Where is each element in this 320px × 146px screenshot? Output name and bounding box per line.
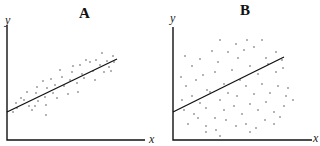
data-point <box>231 69 233 71</box>
data-point <box>35 92 37 94</box>
data-point <box>59 69 61 71</box>
data-point <box>31 109 33 111</box>
data-point <box>67 93 69 95</box>
data-point <box>26 91 28 93</box>
data-point <box>281 59 283 61</box>
data-point <box>241 113 243 115</box>
data-point <box>81 73 83 75</box>
data-point <box>94 79 96 81</box>
data-point <box>187 123 189 125</box>
data-point <box>197 117 199 119</box>
data-point <box>12 111 14 113</box>
data-point <box>56 97 58 99</box>
data-point <box>245 123 247 125</box>
data-point <box>225 119 227 121</box>
data-point <box>45 104 47 106</box>
data-point <box>214 117 216 119</box>
data-point <box>61 76 63 78</box>
data-point <box>283 105 285 107</box>
data-point <box>42 80 44 82</box>
data-point <box>217 61 219 63</box>
data-point <box>219 135 221 137</box>
data-point <box>275 71 277 73</box>
data-point <box>191 65 193 67</box>
panel-a-scatter-plot: A y x <box>4 5 155 146</box>
data-point <box>249 131 251 133</box>
data-point <box>269 92 271 94</box>
data-point <box>255 127 257 129</box>
data-point <box>249 65 251 67</box>
panel-b-data-points <box>180 39 294 137</box>
data-point <box>45 114 47 116</box>
data-point <box>209 91 211 93</box>
data-point <box>44 96 46 98</box>
data-point <box>202 74 204 76</box>
data-point <box>279 116 281 118</box>
data-point <box>195 79 197 81</box>
data-point <box>185 85 187 87</box>
data-point <box>227 51 229 53</box>
data-point <box>99 64 101 66</box>
data-point <box>46 87 48 89</box>
data-point <box>253 46 255 48</box>
data-point <box>77 91 79 93</box>
panel-b-title: B <box>240 2 250 18</box>
scatter-comparison-figure: A y x B y x <box>0 0 320 146</box>
data-point <box>101 52 103 54</box>
data-point <box>72 65 74 67</box>
data-point <box>265 101 267 103</box>
data-point <box>219 39 221 41</box>
data-point <box>235 125 237 127</box>
panel-a-title: A <box>79 5 90 21</box>
panel-b-scatter-plot: B y x <box>169 2 319 145</box>
data-point <box>76 82 78 84</box>
data-point <box>257 73 259 75</box>
data-point <box>211 50 213 52</box>
data-point <box>112 55 114 57</box>
data-point <box>205 107 207 109</box>
data-point <box>183 109 185 111</box>
data-point <box>52 92 54 94</box>
panel-a-data-points <box>12 52 115 116</box>
data-point <box>285 95 287 97</box>
data-point <box>110 70 112 72</box>
data-point <box>69 79 71 81</box>
data-point <box>191 95 193 97</box>
data-point <box>34 105 36 107</box>
data-point <box>275 51 277 53</box>
data-point <box>277 85 279 87</box>
data-point <box>28 105 30 107</box>
data-point <box>215 129 217 131</box>
data-point <box>103 71 105 73</box>
data-point <box>257 109 259 111</box>
data-point <box>237 57 239 59</box>
data-point <box>205 125 207 127</box>
data-point <box>273 111 275 113</box>
data-point <box>223 83 225 85</box>
data-point <box>50 78 52 80</box>
data-point <box>113 61 115 63</box>
data-point <box>292 99 294 101</box>
data-point <box>246 39 248 41</box>
data-point <box>71 71 73 73</box>
data-point <box>261 83 263 85</box>
data-point <box>214 71 216 73</box>
data-point <box>233 105 235 107</box>
data-point <box>184 55 186 57</box>
panel-b-y-axis-label: y <box>169 11 176 25</box>
data-point <box>243 49 245 51</box>
data-point <box>180 76 182 78</box>
data-point <box>108 66 110 68</box>
data-point <box>20 97 22 99</box>
data-point <box>245 85 247 87</box>
data-point <box>253 93 255 95</box>
data-point <box>15 102 17 104</box>
data-point <box>36 86 38 88</box>
data-point <box>89 61 91 63</box>
data-point <box>261 39 263 41</box>
panel-a-y-axis-label: y <box>4 13 11 27</box>
panel-a-x-axis-label: x <box>148 132 155 146</box>
data-point <box>37 100 39 102</box>
panel-b-axes <box>173 27 312 140</box>
data-point <box>85 59 87 61</box>
